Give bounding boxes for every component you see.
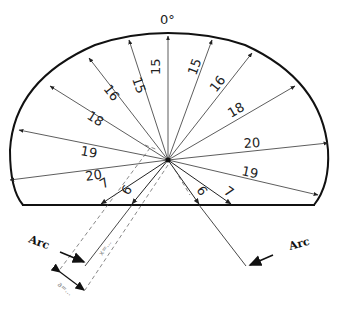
svg-text:6: 6: [118, 182, 135, 197]
svg-text:20: 20: [243, 135, 261, 151]
svg-text:7: 7: [97, 174, 112, 191]
svg-text:19: 19: [79, 143, 98, 161]
arc-label-right: Arc: [286, 235, 311, 253]
top-angle-label: 0°: [160, 12, 175, 27]
arc-label-left: Arc: [26, 232, 51, 252]
x-dimension-label: x=...: [97, 239, 113, 257]
rays-lower: [101, 160, 231, 204]
svg-text:15: 15: [148, 58, 163, 75]
arc-arrow-left: [60, 252, 84, 262]
svg-text:18: 18: [225, 99, 247, 120]
ray-labels: 15 15 16 18 19 20 15 16 18 20 19 7 6 6 7: [79, 56, 260, 200]
rays-upper: [10, 36, 328, 195]
svg-text:18: 18: [84, 108, 106, 129]
svg-text:16: 16: [101, 82, 123, 104]
electrode-lines: [85, 205, 246, 266]
svg-text:15: 15: [185, 56, 205, 77]
svg-text:7: 7: [221, 183, 236, 200]
svg-text:19: 19: [240, 163, 259, 181]
arc-radial-diagram: 0° 15 15 16 18: [0, 0, 340, 310]
dome-outline: [10, 33, 328, 205]
center-point: [166, 158, 171, 163]
construction-dashed-lines: [58, 145, 190, 290]
svg-text:6: 6: [194, 183, 211, 198]
a-dimension-label: a=...: [56, 280, 74, 297]
svg-text:16: 16: [207, 73, 229, 95]
arc-arrow-right: [250, 255, 273, 265]
